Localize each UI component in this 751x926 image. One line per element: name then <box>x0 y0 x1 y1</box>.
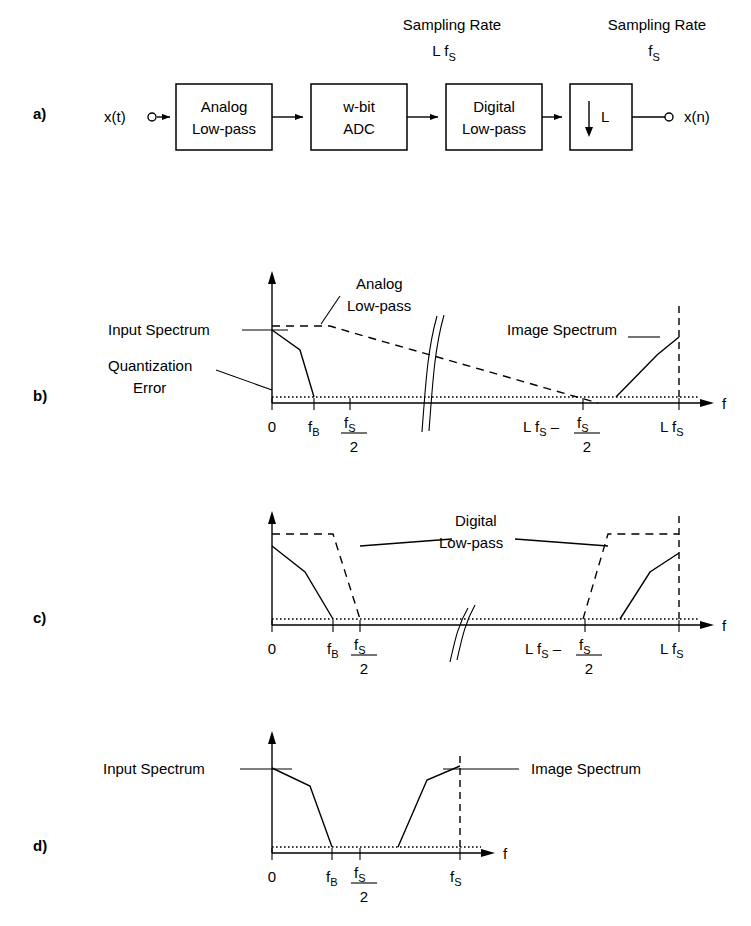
panel-b-quantization-error-line1: Quantization <box>108 357 192 374</box>
block-adc-line2: ADC <box>343 120 375 137</box>
sampling-rate-2-value: fS <box>648 42 660 63</box>
panel-c: c) f Digital <box>33 511 727 677</box>
panel-c-digital-lowpass-left-dashed <box>272 534 360 619</box>
panel-b-ticklabel-lfs-den: 2 <box>583 438 591 455</box>
panel-b-quantization-error-leader <box>216 370 272 390</box>
block-digital-lowpass-box <box>446 84 542 150</box>
panel-b-analog-lowpass-annotation: Analog Low-pass <box>321 275 411 324</box>
panel-b-quantization-error-line2: Error <box>133 379 166 396</box>
sampling-rate-1-value: L fS <box>432 42 455 63</box>
panel-d-ticklabel-fb: fB <box>326 868 338 888</box>
panel-c-axis-break-mark-2 <box>457 605 475 660</box>
panel-b-input-spectrum-annotation: Input Spectrum <box>108 321 288 338</box>
block-analog-lowpass: Analog Low-pass <box>176 84 272 150</box>
panel-b-label: b) <box>33 387 47 404</box>
panel-d-image-spectrum-curve <box>398 766 460 847</box>
panel-b-ticklabel-lfs-num: fS <box>577 414 589 434</box>
panel-d-ticklabel-fs2: fS 2 <box>351 864 377 905</box>
panel-b-ticklabel-fs2-den: 2 <box>350 438 358 455</box>
panel-c-digital-lowpass-right-dashed <box>583 534 679 619</box>
panel-c-digital-lowpass-annotation: Digital Low-pass <box>439 512 503 551</box>
block-adc-line1: w-bit <box>342 98 376 115</box>
panel-b-axis-label: f <box>722 395 727 412</box>
panel-c-x-axis-arrowhead <box>700 621 714 629</box>
panel-c-axis-label: f <box>722 617 727 634</box>
panel-c-ticklabel-fs2-num: fS <box>354 636 366 656</box>
block-analog-lowpass-line1: Analog <box>201 98 248 115</box>
panel-d-ticklabel-fs: fS <box>450 868 462 888</box>
panel-c-ticklabel-lfs: L fS <box>660 640 683 660</box>
panel-b-image-spectrum-label: Image Spectrum <box>507 321 617 338</box>
block-decimator: L <box>570 84 632 150</box>
panel-c-ticklabel-lfs-minus-fs2: L fS – fS 2 <box>525 636 602 677</box>
panel-c-ticklabel-lfs-prefix: L fS – <box>525 640 562 660</box>
panel-d-ticklabel-0: 0 <box>268 868 276 885</box>
figure-root: a) Sampling Rate L fS Sampling Rate fS x… <box>0 0 751 926</box>
oversampling-adc-figure: a) Sampling Rate L fS Sampling Rate fS x… <box>0 0 751 926</box>
panel-b-y-axis-arrowhead <box>268 271 276 284</box>
panel-b-ticklabel-lfs-prefix: L fS – <box>523 418 560 438</box>
sampling-rate-annotation-2: Sampling Rate fS <box>608 16 706 63</box>
panel-b-analog-lowpass-line1: Analog <box>356 275 403 292</box>
panel-c-digital-lowpass-response-right <box>515 539 608 546</box>
block-analog-lowpass-line2: Low-pass <box>192 120 256 137</box>
panel-b-ticklabel-lfs: L fS <box>660 418 683 438</box>
panel-b-analog-lowpass-line2: Low-pass <box>347 297 411 314</box>
panel-d-x-axis-arrowhead <box>481 849 495 857</box>
panel-b-ticklabel-fs2-num: fS <box>344 414 356 434</box>
panel-b-ticklabel-fs2: fS 2 <box>341 414 367 455</box>
block-analog-lowpass-box <box>176 84 272 150</box>
panel-d-ticklabel-fs2-num: fS <box>354 864 366 884</box>
panel-d-input-spectrum-annotation: Input Spectrum <box>103 760 292 777</box>
panel-a: a) Sampling Rate L fS Sampling Rate fS x… <box>33 16 710 150</box>
sampling-rate-2-title: Sampling Rate <box>608 16 706 33</box>
block-adc: w-bit ADC <box>311 84 407 150</box>
panel-b-axis-break-mark-2 <box>429 315 444 431</box>
panel-b-input-spectrum-curve <box>272 330 314 397</box>
panel-c-ticklabel-lfs-den: 2 <box>585 660 593 677</box>
panel-b-ticklabel-0: 0 <box>268 418 276 435</box>
panel-d-label: d) <box>33 837 47 854</box>
panel-b-x-axis-arrowhead <box>700 399 714 407</box>
panel-c-image-spectrum-curve <box>620 553 679 619</box>
panel-b-quantization-error-annotation: Quantization Error <box>108 357 272 396</box>
panel-c-digital-lowpass-line2: Low-pass <box>439 534 503 551</box>
panel-d-input-spectrum-label: Input Spectrum <box>103 760 205 777</box>
input-node-icon <box>148 113 156 121</box>
decimator-factor-label: L <box>601 108 609 125</box>
panel-b-analog-lowpass-leader <box>321 296 340 324</box>
panel-d-axis-label: f <box>503 845 508 862</box>
panel-c-ticklabel-fs2-den: 2 <box>360 660 368 677</box>
panel-b: b) f Input Spectrum <box>33 271 727 455</box>
panel-b-input-spectrum-label: Input Spectrum <box>108 321 210 338</box>
panel-c-axis-break-mark-1 <box>450 608 468 662</box>
panel-c-ticklabel-lfs-num: fS <box>579 636 591 656</box>
panel-c-ticklabel-fs2: fS 2 <box>351 636 377 677</box>
panel-c-input-spectrum-curve <box>272 546 333 619</box>
output-node-icon <box>665 113 673 121</box>
panel-b-ticklabel-fb: fB <box>308 418 320 438</box>
panel-d-ticklabel-fs2-den: 2 <box>360 888 368 905</box>
panel-a-label: a) <box>33 105 46 122</box>
sampling-rate-annotation-1: Sampling Rate L fS <box>403 16 501 63</box>
panel-c-digital-lowpass-line1: Digital <box>455 512 497 529</box>
panel-b-image-spectrum-curve <box>616 337 679 397</box>
block-digital-lowpass: Digital Low-pass <box>446 84 542 150</box>
panel-b-ticklabel-lfs-minus-fs2: L fS – fS 2 <box>523 414 600 455</box>
input-signal-label: x(t) <box>104 108 126 125</box>
panel-d-y-axis-arrowhead <box>268 731 276 744</box>
output-signal-label: x(n) <box>684 108 710 125</box>
panel-c-ticklabel-fb: fB <box>327 640 339 660</box>
panel-c-label: c) <box>33 609 46 626</box>
panel-d-image-spectrum-annotation: Image Spectrum <box>443 760 641 777</box>
panel-c-ticklabel-0: 0 <box>268 640 276 657</box>
panel-c-y-axis-arrowhead <box>268 511 276 524</box>
panel-d-input-spectrum-curve <box>272 768 332 847</box>
block-digital-lowpass-line2: Low-pass <box>462 120 526 137</box>
panel-d: d) f Input Spectrum Image Spectrum <box>33 731 641 905</box>
panel-d-image-spectrum-label: Image Spectrum <box>531 760 641 777</box>
block-adc-box <box>311 84 407 150</box>
block-digital-lowpass-line1: Digital <box>473 98 515 115</box>
panel-b-axis-break-mark-1 <box>422 316 437 432</box>
panel-b-image-spectrum-annotation: Image Spectrum <box>507 321 660 338</box>
